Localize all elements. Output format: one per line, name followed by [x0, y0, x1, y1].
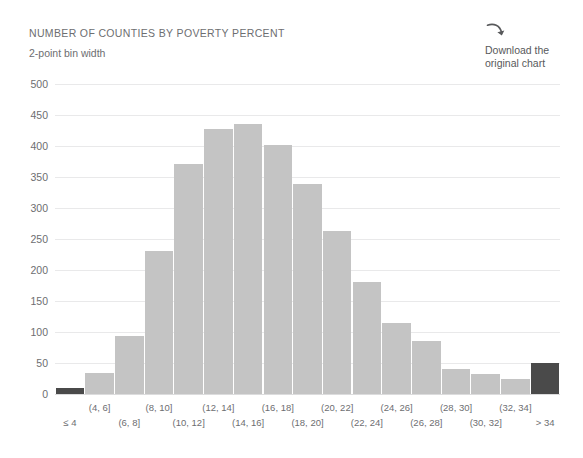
x-axis-tick-label: (28, 30]	[440, 402, 472, 413]
y-axis-tick-label: 0	[42, 388, 48, 400]
x-axis-tick-label: (4, 6]	[89, 402, 111, 413]
histogram-bar[interactable]	[145, 251, 174, 394]
histogram-bar[interactable]	[293, 184, 322, 394]
x-axis-tick-label: (6, 8]	[118, 417, 140, 428]
histogram-bar[interactable]	[85, 373, 114, 394]
histogram-bar[interactable]	[323, 231, 352, 394]
histogram-bar[interactable]	[353, 282, 382, 394]
y-axis-tick-label: 200	[30, 264, 48, 276]
x-axis-tick-label: (10, 12]	[173, 417, 205, 428]
histogram-bar[interactable]	[264, 145, 293, 394]
x-axis-tick-label: (24, 26]	[381, 402, 413, 413]
y-axis-tick-label: 500	[30, 78, 48, 90]
x-axis-baseline	[55, 394, 560, 395]
y-axis-tick-label: 50	[36, 357, 48, 369]
x-axis-tick-label: > 34	[536, 417, 555, 428]
histogram-bar[interactable]	[501, 379, 530, 395]
x-axis-tick-label: (16, 18]	[262, 402, 294, 413]
x-axis-tick-label: (26, 28]	[410, 417, 442, 428]
chart-subtitle: 2-point bin width	[29, 47, 459, 59]
y-axis: 050100150200250300350400450500	[0, 84, 48, 394]
histogram-bar[interactable]	[412, 341, 441, 394]
page-title: NUMBER OF COUNTIES BY POVERTY PERCENT	[29, 27, 459, 39]
histogram-bars	[55, 84, 560, 394]
download-label: Download the original chart	[485, 44, 571, 70]
histogram-bar[interactable]	[531, 363, 560, 394]
x-axis-tick-label: (14, 16]	[232, 417, 264, 428]
histogram-bar[interactable]	[234, 124, 263, 394]
x-axis-tick-label: (18, 20]	[291, 417, 323, 428]
y-axis-tick-label: 250	[30, 233, 48, 245]
x-axis-tick-label: (20, 22]	[321, 402, 353, 413]
histogram-bar[interactable]	[115, 336, 144, 394]
histogram-bar[interactable]	[471, 374, 500, 394]
download-original-chart-button[interactable]: Download the original chart	[485, 22, 571, 70]
x-axis-tick-label: (30, 32]	[470, 417, 502, 428]
x-axis-tick-label: (8, 10]	[146, 402, 173, 413]
x-axis-tick-label: ≤ 4	[63, 417, 76, 428]
x-axis-tick-label: (22, 24]	[351, 417, 383, 428]
histogram-bar[interactable]	[442, 369, 471, 394]
y-axis-tick-label: 150	[30, 295, 48, 307]
chart-header: NUMBER OF COUNTIES BY POVERTY PERCENT 2-…	[29, 27, 459, 59]
y-axis-tick-label: 100	[30, 326, 48, 338]
histogram-bar[interactable]	[56, 388, 85, 394]
curved-download-arrow-icon	[485, 22, 507, 42]
y-axis-tick-label: 400	[30, 140, 48, 152]
histogram-bar[interactable]	[174, 164, 203, 394]
x-axis-tick-label: (12, 14]	[202, 402, 234, 413]
y-axis-tick-label: 300	[30, 202, 48, 214]
y-axis-tick-label: 350	[30, 171, 48, 183]
x-axis-tick-label: (32, 34]	[499, 402, 531, 413]
y-axis-tick-label: 450	[30, 109, 48, 121]
histogram-bar[interactable]	[382, 323, 411, 394]
histogram-bar[interactable]	[204, 129, 233, 394]
x-axis: ≤ 4(4, 6](6, 8](8, 10](10, 12](12, 14](1…	[55, 398, 560, 438]
